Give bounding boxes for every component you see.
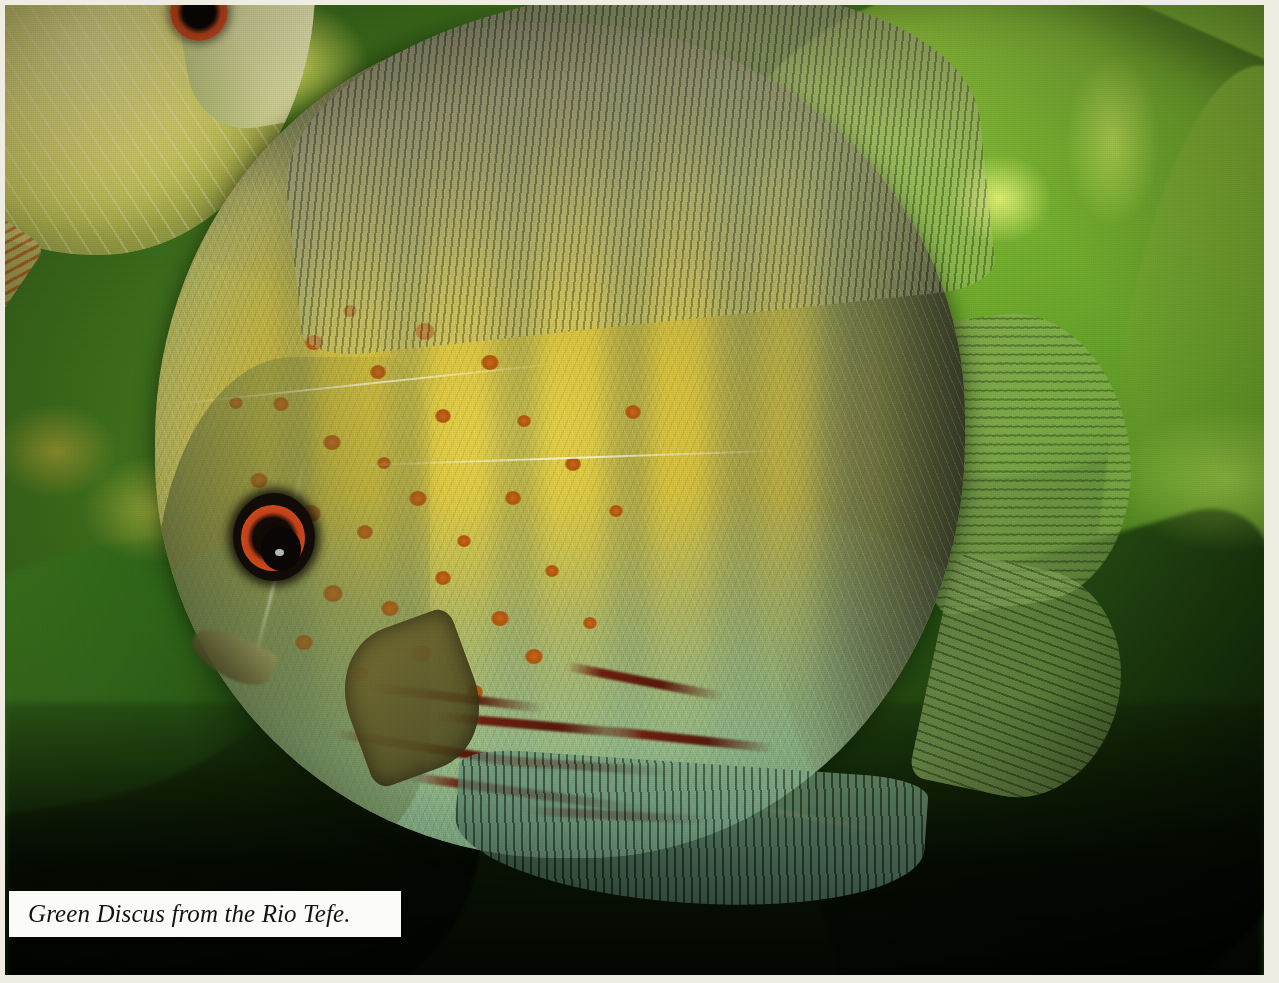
photograph: Green Discus from the Rio Tefe. [5, 5, 1264, 975]
red-stripe [566, 662, 725, 701]
iris [241, 505, 305, 571]
eye-highlight [275, 549, 284, 556]
caption-bar: Green Discus from the Rio Tefe. [9, 891, 401, 937]
green-discus-primary [155, 23, 965, 858]
red-stripe [605, 726, 775, 753]
caption-text: Green Discus from the Rio Tefe. [9, 900, 351, 928]
eye-primary [233, 493, 315, 581]
photo-plate-page: Green Discus from the Rio Tefe. [0, 0, 1279, 983]
